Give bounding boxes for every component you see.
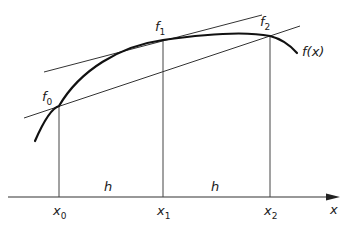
label-h-2: h [211, 179, 219, 194]
label-f0: f0 [42, 89, 53, 107]
label-x0: x0 [52, 203, 67, 221]
label-x2: x2 [263, 203, 277, 221]
x-axis [8, 194, 340, 201]
label-f2: f2 [260, 14, 270, 32]
derivative-approximation-diagram: f0 f1 f2 f(x) h h x0 x1 x2 x [0, 0, 355, 230]
curve-label: f(x) [302, 44, 324, 59]
label-x1: x1 [156, 203, 170, 221]
function-curve [35, 33, 297, 141]
axis-arrow-icon [326, 194, 340, 201]
axis-label-x: x [329, 202, 338, 217]
label-h-1: h [104, 179, 112, 194]
tangent-line-f1 [44, 15, 262, 72]
label-f1: f1 [155, 19, 165, 37]
